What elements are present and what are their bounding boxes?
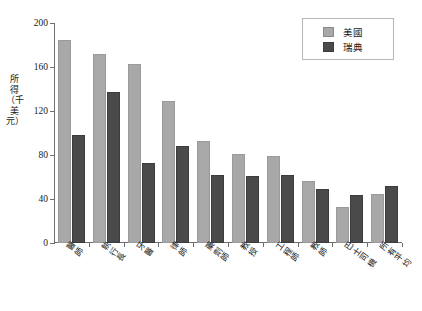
bar-group: [128, 23, 155, 243]
bar-group: [162, 23, 189, 243]
bar-group: [232, 23, 259, 243]
x-axis-tick: [124, 243, 125, 247]
bar-group: [93, 23, 120, 243]
bar-se: [350, 195, 363, 243]
bar-se: [142, 163, 155, 243]
legend-label-us: 美國: [343, 25, 363, 39]
legend-item-se: 瑞典: [309, 39, 387, 54]
y-axis-tick-label: 80: [39, 150, 49, 160]
x-axis-tick: [263, 243, 264, 247]
bar-se: [316, 189, 329, 243]
x-axis-tick: [89, 243, 90, 247]
x-axis-tick: [228, 243, 229, 247]
legend-swatch-icon-us: [323, 27, 334, 37]
y-axis-tick-label: 200: [34, 18, 48, 28]
x-axis-tick: [298, 243, 299, 247]
bar-se: [72, 135, 85, 243]
legend-item-us: 美國: [309, 24, 387, 39]
bar-us: [128, 64, 141, 243]
x-axis-category-label: 所有平均: [378, 238, 415, 269]
bar-us: [58, 40, 71, 244]
bar-us: [267, 156, 280, 243]
bar-us: [302, 181, 315, 243]
legend-label-se: 瑞典: [343, 40, 363, 54]
y-axis-tick-label: 120: [34, 106, 48, 116]
bar-se: [176, 146, 189, 243]
bar-us: [93, 54, 106, 243]
bar-us: [336, 207, 349, 243]
bar-se: [281, 175, 294, 243]
bar-us: [371, 194, 384, 244]
bar-se: [211, 175, 224, 243]
bar-group: [58, 23, 85, 243]
chart-legend: 美國 瑞典: [302, 18, 394, 60]
bar-group: [267, 23, 294, 243]
bar-group: [197, 23, 224, 243]
y-axis-tick-label: 160: [34, 62, 48, 72]
bar-us: [232, 154, 245, 243]
bar-chart: 所得（千美元） 04080120160200 醫師執行長牙醫律師藥劑師教授工程師…: [0, 0, 422, 311]
y-axis-tick-label: 40: [39, 194, 49, 204]
bar-se: [107, 92, 120, 243]
x-axis-tick: [402, 243, 403, 247]
legend-swatch-icon-se: [323, 42, 334, 52]
x-axis-labels: 醫師執行長牙醫律師藥劑師教授工程師教師巴士司機所有平均: [0, 243, 422, 311]
bar-se: [385, 186, 398, 243]
x-axis-tick: [158, 243, 159, 247]
bar-us: [197, 141, 210, 243]
x-axis-category-label: 巴士司機: [343, 238, 380, 269]
x-axis-tick: [193, 243, 194, 247]
y-axis-title: 所得（千美元）: [6, 74, 22, 127]
x-axis-tick: [367, 243, 368, 247]
bar-se: [246, 176, 259, 243]
x-axis-tick: [332, 243, 333, 247]
bar-us: [162, 101, 175, 243]
